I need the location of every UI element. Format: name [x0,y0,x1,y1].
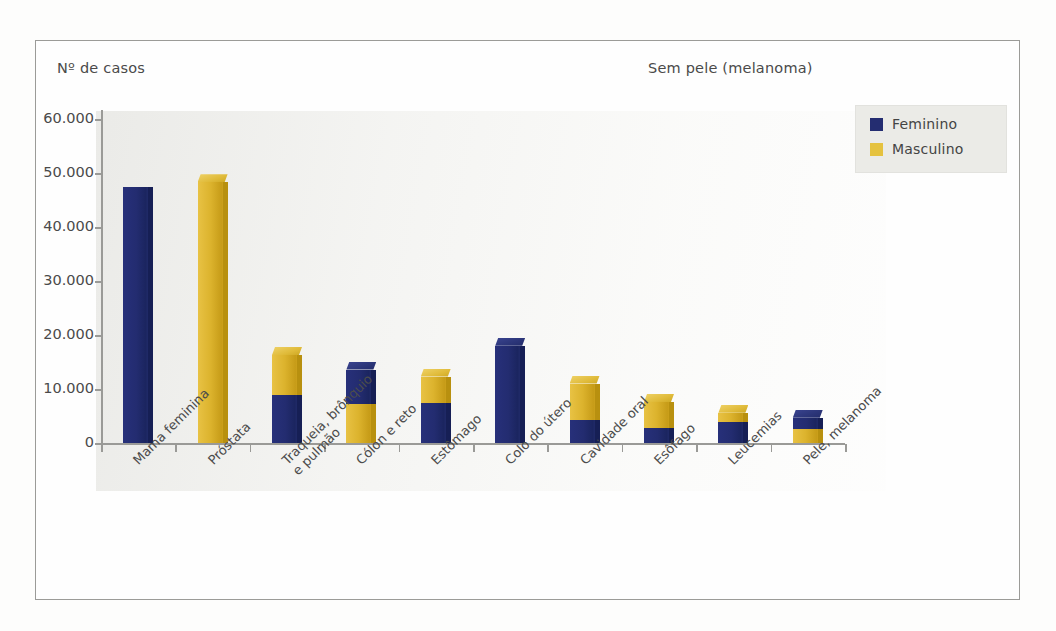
bar-top-cap [421,369,451,377]
bar-column[interactable] [570,384,600,443]
square-swatch-icon [870,118,883,131]
bar-column[interactable] [495,346,525,443]
bar-top-cap [718,405,748,413]
chart-legend: FemininoMasculino [855,105,1007,173]
x-tick-mark [771,444,773,452]
plot-area: 60.00050.00040.00030.00020.00010.0000 Ma… [0,0,1056,631]
bar-side-shade [595,384,600,421]
bar-top-cap [570,376,600,384]
bar-segment-feminino[interactable] [123,187,153,444]
bar-column[interactable] [123,187,153,444]
bar-segment-masculino[interactable] [272,355,302,395]
chart-page: Nº de casos Sem pele (melanoma) 60.00050… [0,0,1056,631]
bar-side-shade [743,413,748,422]
bar-top-cap [346,362,376,370]
legend-label: Feminino [892,116,957,132]
bar-side-shade [520,346,525,443]
bar-top-cap [793,410,823,418]
x-tick-mark [696,444,698,452]
legend-item[interactable]: Feminino [870,116,1006,132]
bar-side-shade [669,402,674,428]
x-tick-mark [547,444,549,452]
x-tick-mark [399,444,401,452]
bar-side-shade [148,187,153,444]
bar-side-shade [446,377,451,403]
x-tick-mark [175,444,177,452]
bar-side-shade [223,182,228,443]
bar-top-cap [272,347,302,355]
bar-top-cap [198,174,228,182]
bar-segment-masculino[interactable] [421,377,451,403]
bar-series-layer [0,0,1056,443]
bar-segment-feminino[interactable] [495,346,525,443]
x-tick-mark [250,444,252,452]
bar-segment-feminino[interactable] [793,418,823,429]
x-tick-mark [473,444,475,452]
bar-side-shade [297,355,302,395]
bar-segment-feminino[interactable] [272,395,302,443]
bar-segment-masculino[interactable] [570,384,600,421]
legend-label: Masculino [892,141,964,157]
x-tick-mark [622,444,624,452]
x-tick-mark [845,444,847,452]
bar-segment-masculino[interactable] [718,413,748,422]
bar-column[interactable] [272,355,302,443]
bar-column[interactable] [421,377,451,443]
bar-side-shade [818,418,823,429]
bar-top-cap [495,338,525,346]
legend-item[interactable]: Masculino [870,141,1006,157]
x-tick-mark [101,444,103,452]
square-swatch-icon [870,143,883,156]
